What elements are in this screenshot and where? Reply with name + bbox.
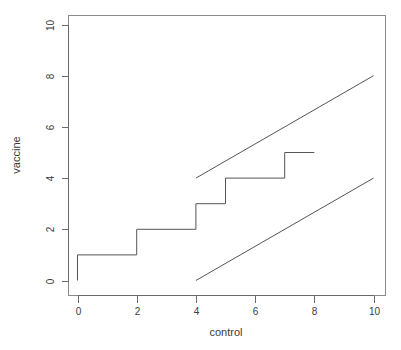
- plot-canvas: 0246810 vaccine 0246810 control: [0, 0, 401, 350]
- x-tick-label: 6: [253, 306, 259, 317]
- y-tick-label: 8: [45, 73, 56, 79]
- x-tick-label: 0: [76, 306, 82, 317]
- y-axis-title: vaccine: [10, 136, 22, 173]
- x-tick-label: 2: [135, 306, 141, 317]
- y-tick-label: 6: [45, 124, 56, 130]
- chart-svg: 0246810 vaccine 0246810 control: [0, 0, 401, 350]
- y-tick-label: 4: [45, 175, 56, 181]
- x-axis-title: control: [209, 326, 242, 338]
- x-tick-label: 10: [369, 306, 381, 317]
- y-tick-label: 2: [45, 226, 56, 232]
- y-tick-label: 0: [45, 278, 56, 284]
- y-tick-label: 10: [45, 20, 56, 32]
- x-tick-label: 4: [194, 306, 200, 317]
- x-tick-label: 8: [312, 306, 318, 317]
